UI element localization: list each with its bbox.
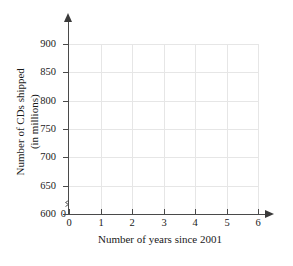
y-axis-tick-label: 600 [20,209,56,220]
y-axis-tick-label: 700 [20,152,56,163]
x-axis-tick [69,209,70,215]
x-axis-tick-label: 0 [59,218,79,229]
chart-figure: 0 Number of years since 2001 Number of C… [0,0,293,266]
gridline-vertical [195,44,196,214]
y-axis-tick-label: 900 [20,39,56,50]
x-axis-tick-label: 5 [217,218,237,229]
x-axis-tick [195,209,196,215]
y-axis-break-icon [64,199,73,208]
y-axis-tick-label: 750 [20,124,56,135]
y-axis-tick-label: 800 [20,96,56,107]
x-axis-tick-label: 6 [248,218,268,229]
y-axis-tick [63,129,69,130]
gridline-vertical [227,44,228,214]
x-axis-tick-label: 2 [122,218,142,229]
x-axis-tick-label: 4 [185,218,205,229]
x-axis-tick [258,209,259,215]
x-axis-title: Number of years since 2001 [50,233,270,245]
x-axis-arrow-icon [265,210,274,218]
x-axis-tick [164,209,165,215]
y-axis-tick-label: 850 [20,67,56,78]
x-axis-tick [227,209,228,215]
y-axis-arrow-icon [64,13,72,22]
gridline-vertical [164,44,165,214]
y-axis-tick [63,101,69,102]
plot-area [69,44,258,214]
x-axis-tick-label: 1 [91,218,111,229]
gridline-vertical [132,44,133,214]
x-axis-line [68,214,266,215]
gridline-vertical [258,44,259,214]
gridline-vertical [101,44,102,214]
y-axis-tick [63,186,69,187]
y-axis-tick-label: 650 [20,181,56,192]
x-axis-tick [132,209,133,215]
y-axis-tick [63,72,69,73]
x-axis-tick-label: 3 [154,218,174,229]
y-axis-tick [63,44,69,45]
x-axis-tick [101,209,102,215]
y-axis-tick [63,157,69,158]
